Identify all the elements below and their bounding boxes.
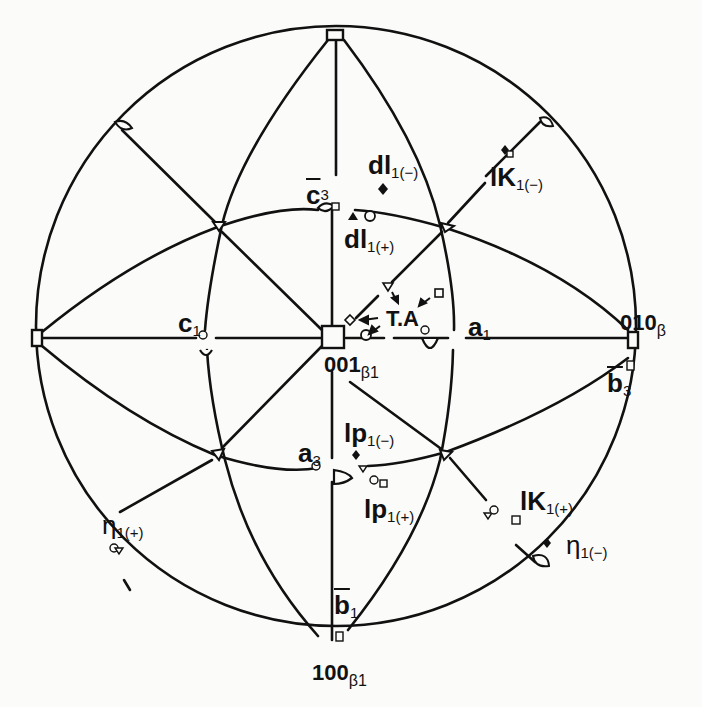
- label-c3-bar: c3: [306, 182, 329, 208]
- symbol-open-circle-dl1: [365, 211, 375, 221]
- symbol-open-diamond-ta: [345, 315, 355, 325]
- arc-top-right: [344, 40, 454, 330]
- label-pole-001: 001β1: [324, 354, 379, 376]
- label-a3: a3: [298, 440, 321, 466]
- pole-001-square: [322, 326, 344, 348]
- arc-right-bottom: [368, 358, 628, 466]
- label-pole-010: 010β: [620, 312, 666, 334]
- label-a1: a1: [468, 314, 491, 340]
- symbol-open-square-K1minus: [507, 151, 513, 157]
- symbol-open-square-K1plus: [512, 516, 520, 524]
- label-p1-plus: lp1(+): [364, 496, 414, 522]
- stereogram: 001β1 010β 100β1 c3 dl1(−) dl1(+) lK1(−)…: [0, 0, 702, 707]
- edge-marker-se: [533, 555, 549, 566]
- label-dl1-minus: dl1(−): [368, 152, 418, 178]
- symbol-open-triangle-K1plus: [484, 513, 492, 519]
- symbol-open-square-c3: [332, 203, 339, 210]
- label-K1-plus: lK1(+): [520, 488, 573, 514]
- diag-sw-outer: [120, 460, 212, 512]
- symbol-open-triangle-ta: [383, 283, 393, 291]
- symbol-filled-triangle-dl1: [348, 212, 358, 220]
- label-c1: c1: [178, 310, 201, 336]
- lens-c1: [200, 350, 212, 355]
- diag-nw-inner: [222, 232, 324, 332]
- symbol-filled-diamond-p1: [352, 450, 360, 460]
- pole-left-square: [32, 330, 42, 346]
- diag-se-outer: [450, 458, 486, 500]
- diag-ne-inner2: [356, 296, 378, 318]
- symbol-filled-diamond-dl1: [378, 183, 388, 195]
- symbol-open-square-p1: [380, 480, 387, 487]
- diag-ne-inner: [392, 232, 442, 282]
- symbol-open-square-b1: [336, 632, 343, 641]
- edge-marker-nw: [115, 121, 132, 130]
- diag-sw-edge: [124, 580, 130, 590]
- diag-ne-mid: [448, 183, 485, 223]
- orientation-symbols: [110, 145, 634, 641]
- symbol-open-triangle-eta1plus: [115, 548, 123, 554]
- symbol-open-square-b3: [627, 361, 634, 370]
- label-K1-minus: lK1(−): [490, 164, 543, 190]
- symbol-open-square-ta: [435, 289, 443, 297]
- label-pole-100: 100β1: [312, 662, 367, 684]
- junction-nw-triangle: [213, 222, 225, 231]
- diag-nw-outer: [122, 130, 215, 222]
- symbol-open-circle-p1: [370, 476, 378, 484]
- label-b3-bar: b3: [607, 370, 631, 396]
- symbol-filled-diamond-eta1minus: [543, 538, 551, 548]
- lens-a3: [334, 470, 352, 484]
- label-eta1-minus: η1(−): [566, 532, 608, 558]
- label-eta1-plus: η1(+): [102, 512, 144, 538]
- symbol-open-circle-K1plus: [490, 506, 498, 514]
- symbol-open-circle-a1: [421, 326, 429, 334]
- label-dl1-plus: dl1(+): [344, 226, 394, 252]
- lens-a1: [422, 338, 438, 348]
- diag-sw-inner: [222, 346, 322, 448]
- pole-top-square: [327, 30, 343, 40]
- label-b1-bar: b1: [334, 592, 358, 618]
- edge-marker-ne: [540, 117, 553, 126]
- arc-bottom-left: [207, 350, 318, 636]
- symbol-open-triangle-p1: [359, 466, 367, 472]
- label-ta: T.A: [386, 308, 419, 330]
- label-p1-minus: lp1(−): [344, 420, 394, 446]
- arc-left-bottom: [42, 346, 318, 470]
